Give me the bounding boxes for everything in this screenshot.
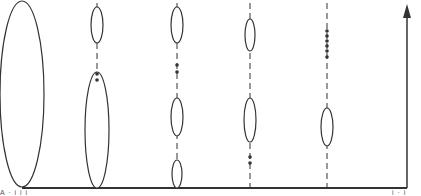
ellipse-node-2-2 xyxy=(172,160,182,188)
bottom-right-label-fragment: i · i xyxy=(392,189,406,196)
dot-marker-2-0 xyxy=(175,63,179,67)
ellipse-node-2-0 xyxy=(171,7,183,43)
dot-marker-4-3 xyxy=(325,44,329,48)
dot-marker-3-1 xyxy=(248,161,252,165)
dot-marker-2-1 xyxy=(175,70,179,74)
dot-marker-1-1 xyxy=(95,78,99,82)
ellipse-node-4-0 xyxy=(321,108,333,146)
diagram-canvas xyxy=(0,0,421,196)
dot-marker-4-5 xyxy=(325,55,329,59)
arrow-head-icon xyxy=(403,4,411,18)
dot-marker-4-4 xyxy=(325,49,329,53)
dot-marker-4-1 xyxy=(325,34,329,38)
ellipse-node-3-0 xyxy=(245,19,255,51)
bottom-left-label-fragment: A · i i i xyxy=(0,189,28,196)
ellipse-node-1-1 xyxy=(85,72,109,188)
dot-marker-4-0 xyxy=(325,29,329,33)
ellipse-node-1-0 xyxy=(91,7,103,43)
dot-marker-3-0 xyxy=(248,155,252,159)
ellipse-node-3-1 xyxy=(244,98,256,142)
ellipse-node-0-0 xyxy=(0,1,44,187)
dot-marker-1-0 xyxy=(95,72,99,76)
dot-marker-4-2 xyxy=(325,39,329,43)
ellipse-node-2-1 xyxy=(171,98,183,136)
